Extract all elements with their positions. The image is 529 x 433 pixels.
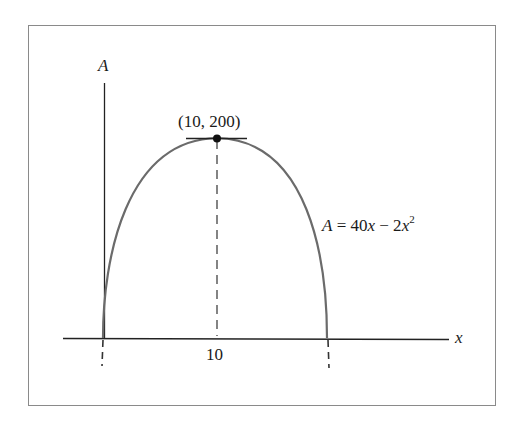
eq-var-A: A: [322, 216, 332, 235]
x-axis-label: x: [455, 328, 463, 348]
plot-area: [0, 0, 529, 433]
eq-exponent: 2: [409, 213, 415, 225]
eq-minus: − 2: [375, 216, 402, 235]
tick-label-10: 10: [206, 345, 223, 365]
equation-label: A = 40x − 2x2: [322, 213, 415, 236]
eq-mid: = 40: [332, 216, 367, 235]
peak-label: (10, 200): [178, 112, 240, 132]
eq-var-x1: x: [367, 216, 375, 235]
root-left-dashed: [102, 340, 103, 366]
root-right-dashed: [328, 340, 329, 368]
x-axis: [63, 339, 449, 340]
parabola-curve: [103, 138, 327, 338]
y-axis-label: A: [98, 56, 108, 76]
peak-point: [213, 135, 221, 143]
